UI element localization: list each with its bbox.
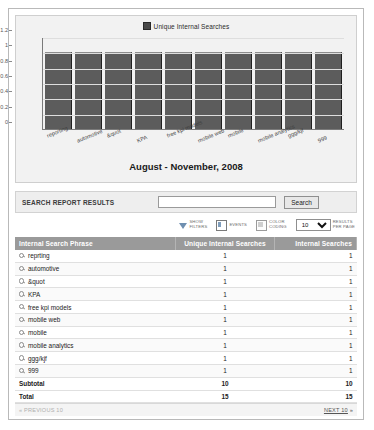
table-row[interactable]: mobile11 xyxy=(15,326,357,339)
gridline xyxy=(43,38,344,39)
x-axis: reportingautomotive&quotKPAfree kpi mode… xyxy=(42,132,344,160)
phrase-text[interactable]: free kpi models xyxy=(28,304,71,311)
results-per-page-select[interactable]: 102550100 xyxy=(296,219,331,231)
search-phrase-icon xyxy=(19,368,25,374)
search-phrase-table: Internal Search Phrase Unique Internal S… xyxy=(15,237,357,403)
search-phrase-icon xyxy=(19,291,25,297)
cell-phrase: KPA xyxy=(15,288,176,301)
search-phrase-icon xyxy=(19,330,25,336)
cell-phrase: mobile xyxy=(15,326,176,339)
bar[interactable] xyxy=(75,52,102,129)
cell-internal-searches: 1 xyxy=(275,365,357,378)
phrase-text[interactable]: reprting xyxy=(28,252,50,259)
table-row[interactable]: &quot11 xyxy=(15,275,357,288)
cell-internal-searches: 1 xyxy=(275,339,357,352)
color-coding-option[interactable]: COLOR CODING xyxy=(256,220,287,231)
y-axis-tick-label: 0.2 xyxy=(0,104,8,111)
cell-phrase: mobile web xyxy=(15,313,176,326)
col-header-searches[interactable]: Internal Searches xyxy=(275,237,357,250)
gridline xyxy=(43,115,344,116)
cell-internal-searches: 1 xyxy=(275,262,357,275)
bar[interactable] xyxy=(225,52,252,129)
bar[interactable] xyxy=(255,52,282,129)
table-row[interactable]: mobile web11 xyxy=(15,313,357,326)
search-button[interactable]: Search xyxy=(284,196,319,209)
cell-internal-searches: 1 xyxy=(275,288,357,301)
cell-phrase: ggg/kjf xyxy=(15,352,176,365)
gridline xyxy=(43,69,344,70)
plot-wrap xyxy=(42,38,344,130)
total-row-unique: 15 xyxy=(176,390,275,403)
y-axis-tick-mark xyxy=(9,30,12,31)
color-coding-icon xyxy=(256,220,267,231)
y-axis-tick-label: 0.8 xyxy=(0,58,8,65)
phrase-text[interactable]: mobile analytics xyxy=(28,342,73,349)
cell-phrase: automotive xyxy=(15,262,176,275)
cell-internal-searches: 1 xyxy=(275,326,357,339)
search-phrase-icon xyxy=(19,253,25,259)
cell-unique-internal-searches: 1 xyxy=(176,365,275,378)
legend-swatch-icon xyxy=(143,22,151,30)
previous-page-link[interactable]: « PREVIOUS 10 xyxy=(19,407,63,413)
table-header-row: Internal Search Phrase Unique Internal S… xyxy=(15,237,357,250)
x-axis-tick-label: 999 xyxy=(317,135,328,144)
search-phrase-icon xyxy=(19,342,25,348)
search-phrase-icon xyxy=(19,317,25,323)
bar[interactable] xyxy=(165,52,192,129)
bar[interactable] xyxy=(105,52,132,129)
total-row: Total1515 xyxy=(15,390,357,403)
events-option[interactable]: EVENTS xyxy=(216,220,247,231)
next-page-link[interactable]: NEXT 10 » xyxy=(324,407,353,413)
cell-phrase: &quot xyxy=(15,275,176,288)
phrase-text[interactable]: &quot xyxy=(28,278,45,285)
y-axis-tick-label: 1.2 xyxy=(0,27,8,34)
subtotal-row-searches: 10 xyxy=(275,377,357,390)
y-axis-tick-mark xyxy=(9,76,12,77)
cell-unique-internal-searches: 1 xyxy=(176,326,275,339)
phrase-text[interactable]: 999 xyxy=(28,367,39,374)
col-header-unique[interactable]: Unique Internal Searches xyxy=(176,237,275,250)
table-row[interactable]: free kpi models11 xyxy=(15,301,357,314)
cell-unique-internal-searches: 1 xyxy=(176,352,275,365)
phrase-text[interactable]: KPA xyxy=(28,291,40,298)
next-page-suffix: » xyxy=(348,407,353,413)
table-row[interactable]: reprting11 xyxy=(15,250,357,262)
bar[interactable] xyxy=(315,52,342,129)
cell-unique-internal-searches: 1 xyxy=(176,339,275,352)
y-axis-tick-label: 1 xyxy=(5,42,8,49)
chart-legend: Unique Internal Searches xyxy=(16,22,356,30)
pager: « PREVIOUS 10 NEXT 10 » xyxy=(15,403,357,416)
table-row[interactable]: mobile analytics11 xyxy=(15,339,357,352)
results-per-page-option[interactable]: 102550100 RESULTS PER PAGE xyxy=(296,219,355,231)
bar[interactable] xyxy=(285,52,312,129)
search-input[interactable] xyxy=(158,196,276,208)
y-axis-tick-mark xyxy=(9,122,12,123)
cell-unique-internal-searches: 1 xyxy=(176,262,275,275)
cell-phrase: mobile analytics xyxy=(15,339,176,352)
phrase-text[interactable]: mobile xyxy=(28,329,47,336)
table-row[interactable]: automotive11 xyxy=(15,262,357,275)
y-axis-tick-mark xyxy=(9,61,12,62)
x-axis-tick-label: KPA xyxy=(136,134,148,144)
cell-unique-internal-searches: 1 xyxy=(176,288,275,301)
bar[interactable] xyxy=(135,52,162,129)
table-row[interactable]: KPA11 xyxy=(15,288,357,301)
table-row[interactable]: ggg/kjf11 xyxy=(15,352,357,365)
phrase-text[interactable]: automotive xyxy=(28,265,59,272)
table-row[interactable]: 99911 xyxy=(15,365,357,378)
phrase-text[interactable]: mobile web xyxy=(28,316,60,323)
show-filters-option[interactable]: SHOW FILTERS xyxy=(179,220,207,229)
chart-panel: Unique Internal Searches 1.210.80.60.40.… xyxy=(15,15,357,183)
cell-unique-internal-searches: 1 xyxy=(176,313,275,326)
col-header-phrase[interactable]: Internal Search Phrase xyxy=(15,237,176,250)
chart-title: August - November, 2008 xyxy=(16,161,356,172)
phrase-text[interactable]: ggg/kjf xyxy=(28,355,47,362)
bar[interactable] xyxy=(45,52,72,129)
gridline xyxy=(43,99,344,100)
y-axis-tick-mark xyxy=(9,91,12,92)
gridline xyxy=(43,84,344,85)
y-axis-tick-label: 0 xyxy=(5,119,8,126)
cell-unique-internal-searches: 1 xyxy=(176,275,275,288)
results-per-page-label: RESULTS PER PAGE xyxy=(333,220,355,229)
bar[interactable] xyxy=(195,52,222,129)
